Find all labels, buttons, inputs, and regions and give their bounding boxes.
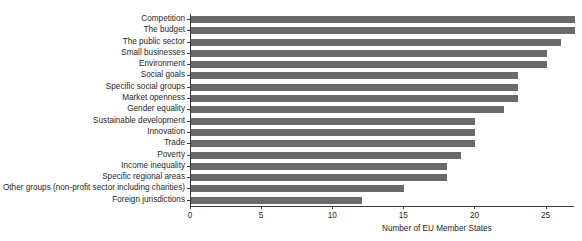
x-axis-tick-label: 15 — [399, 211, 408, 221]
y-axis-tick-mark — [187, 75, 190, 76]
y-axis-tick-mark — [187, 87, 190, 88]
x-axis-tick-label: 20 — [470, 211, 479, 221]
x-axis-tick-label: 5 — [259, 211, 264, 221]
bar — [191, 72, 518, 79]
bar — [191, 39, 561, 46]
y-axis-tick-mark — [187, 143, 190, 144]
y-axis-tick-mark — [187, 132, 190, 133]
y-axis-tick-label: Market openness — [122, 92, 185, 103]
bar — [191, 16, 575, 23]
y-axis-tick-label: Sustainable development — [93, 115, 185, 126]
y-axis-tick-mark — [187, 98, 190, 99]
bar — [191, 140, 475, 147]
x-axis-tick-mark — [546, 206, 547, 209]
bar — [191, 163, 447, 170]
x-axis-line — [190, 206, 574, 207]
bar — [191, 197, 362, 204]
bar — [191, 50, 547, 57]
x-axis-tick-mark — [190, 206, 191, 209]
bar — [191, 129, 475, 136]
y-axis-tick-label: Other groups (non-profit sector includin… — [3, 182, 185, 193]
x-axis-tick-mark — [403, 206, 404, 209]
y-axis-tick-label: Trade — [164, 137, 185, 148]
y-axis-tick-label: The budget — [144, 24, 185, 35]
bar — [191, 185, 404, 192]
y-axis-tick-mark — [187, 121, 190, 122]
y-axis-tick-label: Foreign jurisdictions — [112, 194, 185, 205]
x-axis-tick-mark — [261, 206, 262, 209]
bar — [191, 84, 518, 91]
y-axis-tick-label: Income inequality — [121, 160, 185, 171]
x-axis-tick-label: 0 — [188, 211, 193, 221]
bar — [191, 61, 547, 68]
y-axis-tick-mark — [187, 109, 190, 110]
bar — [191, 27, 575, 34]
y-axis-tick-label: Specific regional areas — [102, 171, 185, 182]
x-axis-tick-mark — [332, 206, 333, 209]
y-axis-tick-mark — [187, 188, 190, 189]
x-axis-title: Number of EU Member States — [382, 224, 492, 234]
y-axis-tick-label: The public sector — [123, 36, 185, 47]
bar — [191, 95, 518, 102]
x-axis-tick-label: 25 — [541, 211, 550, 221]
bar — [191, 106, 504, 113]
y-axis-tick-mark — [187, 64, 190, 65]
x-axis-tick-label: 10 — [328, 211, 337, 221]
y-axis-tick-label: Specific social groups — [106, 81, 185, 92]
y-axis-tick-label: Gender equality — [127, 103, 185, 114]
y-axis-tick-label: Small businesses — [121, 47, 185, 58]
bar — [191, 152, 461, 159]
y-axis-tick-label: Social goals — [141, 69, 185, 80]
y-axis-tick-mark — [187, 200, 190, 201]
y-axis-tick-label: Innovation — [147, 126, 185, 137]
x-axis-tick-mark — [474, 206, 475, 209]
bar-chart-figure: CompetitionThe budgetThe public sectorSm… — [0, 0, 582, 241]
bar — [191, 118, 475, 125]
y-axis-tick-mark — [187, 30, 190, 31]
y-axis-tick-label: Poverty — [157, 149, 185, 160]
y-axis-tick-mark — [187, 177, 190, 178]
bar — [191, 174, 447, 181]
y-axis-tick-mark — [187, 19, 190, 20]
y-axis-tick-mark — [187, 53, 190, 54]
y-axis-tick-mark — [187, 155, 190, 156]
plot-area: CompetitionThe budgetThe public sectorSm… — [190, 14, 574, 206]
y-axis-tick-mark — [187, 166, 190, 167]
y-axis-tick-label: Environment — [139, 58, 185, 69]
y-axis-tick-label: Competition — [141, 13, 185, 24]
chart-title — [8, 0, 478, 3]
y-axis-tick-mark — [187, 42, 190, 43]
